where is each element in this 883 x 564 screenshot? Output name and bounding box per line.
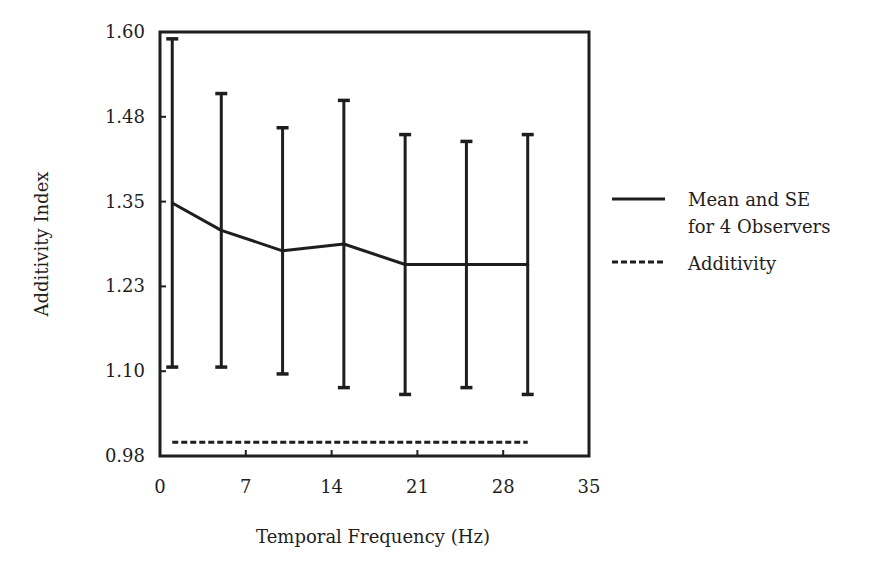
y-axis-label: Additivity Index bbox=[31, 172, 52, 318]
legend-label-mean-line2: for 4 Observers bbox=[688, 216, 830, 237]
y-tick-label: 0.98 bbox=[105, 445, 145, 466]
x-tick-label: 28 bbox=[492, 476, 515, 497]
y-tick-label: 1.10 bbox=[105, 360, 145, 381]
legend-label-mean-line1: Mean and SE bbox=[688, 189, 810, 210]
y-tick-label: 1.23 bbox=[105, 275, 145, 296]
mean-line bbox=[172, 203, 527, 265]
x-tick-label: 35 bbox=[578, 476, 601, 497]
data-point bbox=[404, 263, 407, 266]
chart: 0.981.101.231.351.481.60 0714212835 Temp… bbox=[0, 0, 883, 564]
legend: Mean and SE for 4 Observers Additivity bbox=[612, 189, 830, 274]
x-tick-label: 21 bbox=[406, 476, 429, 497]
x-tick-label: 7 bbox=[240, 476, 251, 497]
data-point bbox=[281, 249, 284, 252]
y-tick-label: 1.48 bbox=[105, 106, 145, 127]
series-group bbox=[166, 39, 533, 442]
plot-frame bbox=[160, 32, 589, 456]
legend-label-additivity: Additivity bbox=[687, 253, 777, 274]
data-point bbox=[171, 201, 174, 204]
y-axis: 0.981.101.231.351.481.60 bbox=[105, 21, 166, 466]
y-tick-label: 1.35 bbox=[105, 191, 145, 212]
x-tick-label: 14 bbox=[320, 476, 343, 497]
x-tick-label: 0 bbox=[154, 476, 165, 497]
data-point bbox=[526, 263, 529, 266]
data-point bbox=[220, 229, 223, 232]
data-point bbox=[342, 243, 345, 246]
x-axis-label: Temporal Frequency (Hz) bbox=[256, 526, 490, 547]
y-tick-label: 1.60 bbox=[105, 21, 145, 42]
data-point bbox=[465, 263, 468, 266]
